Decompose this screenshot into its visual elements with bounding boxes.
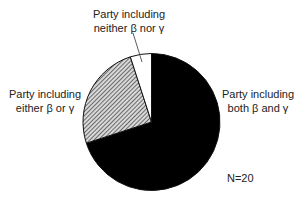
slice-label-either-line1: Party including (5, 88, 85, 102)
slice-label-either: Party including either β or γ (5, 88, 85, 115)
pie-slices (83, 54, 220, 191)
slice-label-neither-line1: Party including (89, 8, 169, 22)
slice-label-neither-line2: neither β nor γ (89, 22, 169, 36)
slice-label-both-line1: Party including (218, 88, 298, 102)
slice-label-neither: Party including neither β nor γ (89, 8, 169, 35)
slice-label-either-line2: either β or γ (5, 102, 85, 116)
slice-label-both-line2: both β and γ (218, 102, 298, 116)
sample-size-label: N=20 (227, 172, 254, 184)
slice-label-both: Party including both β and γ (218, 88, 298, 115)
